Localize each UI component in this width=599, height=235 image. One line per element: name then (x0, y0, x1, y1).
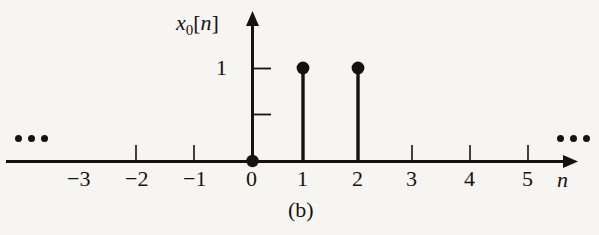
stem-dot-n1 (297, 62, 310, 75)
x-tick-label-minus1: −1 (183, 168, 206, 190)
y-axis-label-base: x (176, 10, 186, 35)
x-tick-label-4: 4 (464, 168, 475, 190)
ellipsis-right-dot-2 (570, 135, 577, 142)
x-axis (6, 155, 578, 168)
figure-caption: (b) (288, 199, 314, 221)
x-axis-name-label: n (557, 169, 568, 191)
y-axis-label-arg: n (201, 10, 212, 35)
stem-dot-n2 (352, 62, 365, 75)
y-axis-ticks (252, 69, 271, 115)
x-tick-label-3: 3 (406, 168, 417, 190)
stem-n1 (297, 62, 310, 161)
stem-n2 (352, 62, 365, 161)
x-tick-label-minus2: −2 (125, 168, 148, 190)
x-axis-ticks (136, 145, 528, 161)
x-tick-label-2: 2 (352, 168, 363, 190)
ellipsis-right-dot-3 (583, 135, 590, 142)
x-tick-label-1: 1 (297, 168, 308, 190)
discrete-signal-figure: x0[n] 1 −3 −2 −1 0 1 2 3 4 5 n (b) (0, 0, 599, 235)
y-axis-arrowhead (246, 11, 259, 26)
ellipsis-right-dot-1 (557, 135, 564, 142)
y-axis-label: x0[n] (176, 12, 219, 38)
ellipsis-left (15, 135, 48, 142)
y-axis-label-bracket-close: ] (212, 10, 219, 35)
y-axis-label-bracket-open: [ (193, 10, 200, 35)
x-tick-label-5: 5 (522, 168, 533, 190)
ellipsis-right (557, 135, 590, 142)
ellipsis-left-dot-1 (15, 135, 22, 142)
y-axis (246, 11, 259, 163)
ellipsis-left-dot-2 (28, 135, 35, 142)
ellipsis-left-dot-3 (41, 135, 48, 142)
x-tick-label-minus3: −3 (67, 168, 90, 190)
x-tick-label-0: 0 (246, 168, 257, 190)
y-tick-label-1: 1 (216, 57, 227, 79)
